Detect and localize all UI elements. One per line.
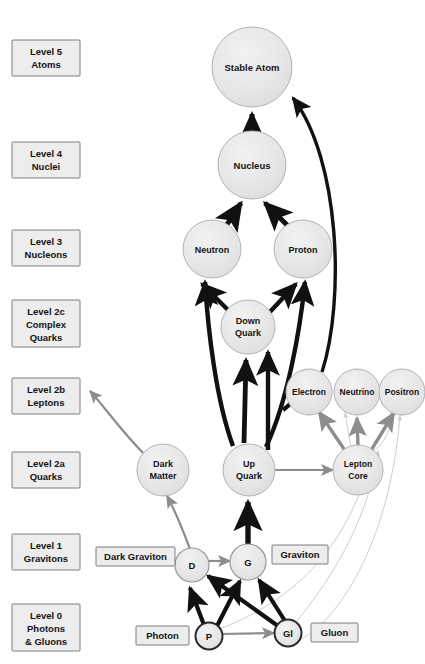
tag-photon-label: Photon (146, 630, 179, 641)
node-nucleus[interactable]: Nucleus (218, 131, 286, 199)
node-down-quark-line2: Quark (235, 328, 262, 338)
node-proton[interactable]: Proton (274, 220, 332, 278)
level-box-level-5: Level 5 Atoms (12, 40, 80, 76)
node-photon-label: P (206, 631, 213, 642)
node-electron[interactable]: Electron (286, 369, 332, 415)
edge-upquark-downquark (244, 360, 246, 443)
level-1-line2: Gravitons (24, 553, 68, 564)
node-down-quark-line1: Down (236, 316, 261, 326)
level-2a-line1: Level 2a (27, 458, 65, 469)
node-proton-label: Proton (289, 245, 318, 255)
node-up-quark[interactable]: Up Quark (223, 444, 275, 496)
node-graviton[interactable]: G (230, 544, 266, 580)
level-box-level-2c: Level 2c Complex Quarks (12, 300, 80, 347)
level-0-line2: Photons (27, 623, 65, 634)
level-5-line2: Atoms (31, 59, 61, 70)
level-3-line2: Nucleons (25, 249, 68, 260)
level-box-level-1: Level 1 Gravitons (12, 534, 80, 570)
node-neutrino-label: Neutrino (340, 387, 375, 397)
level-4-line2: Nuclei (32, 161, 61, 172)
node-neutrino[interactable]: Neutrino (334, 369, 380, 415)
level-0-line1: Level 0 (30, 610, 62, 621)
tag-dark-graviton-label: Dark Graviton (104, 551, 167, 562)
node-nucleus-label: Nucleus (234, 160, 271, 171)
node-dark-graviton[interactable]: D (175, 548, 209, 582)
level-2a-line2: Quarks (30, 471, 63, 482)
node-stable-atom[interactable]: Stable Atom (212, 27, 292, 107)
node-positron-label: Positron (385, 387, 419, 397)
node-electron-label: Electron (292, 387, 326, 397)
tag-gluon-label: Gluon (321, 627, 349, 638)
node-photon[interactable]: P (196, 623, 223, 650)
node-lepton-core-line2: Core (348, 471, 368, 481)
level-2c-line3: Quarks (30, 332, 63, 343)
node-lepton-core-line1: Lepton (344, 459, 372, 469)
level-0-line3: & Gluons (25, 636, 67, 647)
node-up-quark-line1: Up (243, 459, 255, 469)
node-neutron-label: Neutron (195, 245, 230, 255)
edge-leptoncore-neutrino (357, 418, 358, 446)
node-lepton-core[interactable]: Lepton Core (333, 445, 383, 495)
level-3-line1: Level 3 (30, 236, 62, 247)
node-dark-matter-line1: Dark (153, 459, 174, 469)
level-2b-line2: Leptons (28, 397, 65, 408)
node-dark-matter[interactable]: Dark Matter (137, 444, 189, 496)
node-neutron[interactable]: Neutron (183, 220, 241, 278)
node-dark-graviton-label: D (189, 560, 196, 571)
tag-graviton-label: Graviton (280, 549, 319, 560)
node-dark-matter-line2: Matter (149, 471, 177, 481)
edge-photon-gluon (222, 633, 274, 634)
node-up-quark-line2: Quark (236, 471, 263, 481)
level-box-level-2a: Level 2a Quarks (12, 452, 80, 488)
tag-box-gluon: Gluon (311, 623, 358, 642)
level-5-line1: Level 5 (30, 46, 63, 57)
tag-box-dark-graviton: Dark Graviton (96, 547, 175, 566)
level-1-line1: Level 1 (30, 540, 63, 551)
level-box-level-2b: Level 2b Leptons (12, 378, 80, 414)
node-stable-atom-label: Stable Atom (224, 62, 279, 73)
node-gluon[interactable]: Gl (275, 620, 302, 647)
level-2c-line2: Complex (26, 319, 67, 330)
level-2c-line1: Level 2c (27, 306, 65, 317)
level-box-level-4: Level 4 Nuclei (12, 142, 80, 178)
tag-box-graviton: Graviton (272, 545, 328, 564)
node-positron[interactable]: Positron (379, 369, 425, 415)
node-graviton-label: G (244, 557, 251, 568)
node-gluon-label: Gl (283, 628, 293, 639)
level-2b-line1: Level 2b (27, 384, 65, 395)
tag-box-photon: Photon (136, 626, 189, 645)
level-4-line1: Level 4 (30, 148, 63, 159)
level-box-level-0: Level 0 Photons & Gluons (12, 604, 80, 651)
level-box-level-3: Level 3 Nucleons (12, 230, 80, 266)
particle-evolution-diagram: Level 5 Atoms Level 4 Nuclei Level 3 Nuc… (0, 0, 425, 664)
node-down-quark[interactable]: Down Quark (221, 300, 275, 354)
